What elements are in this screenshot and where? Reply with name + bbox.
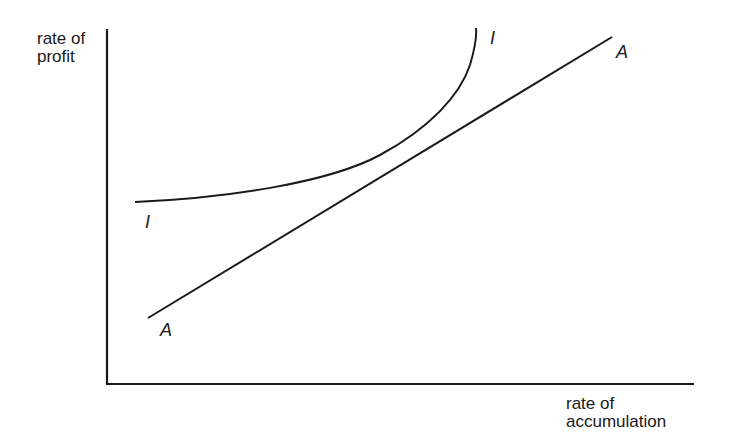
diagram-canvas: [0, 0, 732, 442]
x-axis-label: rate of accumulation: [566, 395, 666, 431]
line-A: [148, 37, 612, 318]
line-A-right-label: A: [616, 42, 628, 63]
curve-I-top-label: I: [490, 28, 495, 49]
curve-I-left-label: I: [145, 212, 150, 233]
y-axis-label: rate of profit: [37, 30, 85, 66]
y-axis-label-line2: profit: [37, 48, 85, 66]
y-axis-label-line1: rate of: [37, 30, 85, 48]
x-axis-label-line1: rate of: [566, 395, 666, 413]
line-A-left-label: A: [160, 320, 172, 341]
x-axis-label-line2: accumulation: [566, 413, 666, 431]
curve-I: [135, 28, 476, 202]
